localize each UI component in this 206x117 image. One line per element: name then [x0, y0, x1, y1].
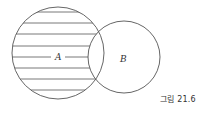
label-b: B — [119, 54, 127, 64]
label-a: A — [54, 52, 62, 62]
hatching-a-minus-b — [0, 12, 206, 90]
figure-caption: 그림 21.6 — [160, 93, 196, 104]
